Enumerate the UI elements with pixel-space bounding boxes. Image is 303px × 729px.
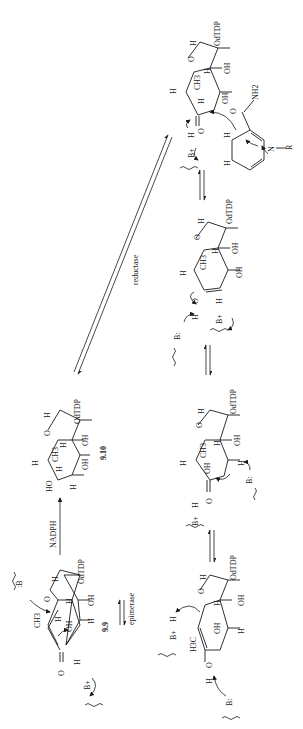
enzyme-wavy-line bbox=[210, 329, 228, 332]
oh-label: OH bbox=[235, 266, 244, 278]
o-ring-label: O bbox=[43, 596, 52, 602]
b-plus-label: B+ bbox=[169, 630, 178, 640]
oh-label: OH bbox=[213, 622, 222, 634]
curly-arrow bbox=[176, 606, 200, 612]
oh-label: OH bbox=[203, 462, 212, 474]
oh-label: OH bbox=[231, 242, 240, 254]
o-ring-label: O bbox=[193, 234, 202, 240]
ch3-label: CH3 bbox=[193, 75, 202, 90]
h-label: H bbox=[237, 628, 246, 634]
h-label: H bbox=[213, 600, 222, 606]
h-label: H bbox=[187, 132, 196, 138]
keto-nadh-complex bbox=[186, 42, 264, 170]
o-ring-label: O bbox=[187, 56, 196, 62]
nadph-label: NADPH bbox=[49, 520, 58, 548]
h-label: H bbox=[169, 616, 178, 622]
o-carbonyl-label: O bbox=[57, 670, 66, 676]
r-label: R bbox=[285, 144, 294, 150]
h-label: H bbox=[213, 440, 222, 446]
o-ring-label: O bbox=[195, 422, 204, 428]
otdp-label: OdTDP bbox=[77, 559, 86, 584]
b-colon-label: B: bbox=[225, 698, 234, 706]
h-label: H bbox=[197, 98, 206, 104]
otdp-label: OdTDP bbox=[225, 199, 234, 224]
h-label: H bbox=[215, 298, 224, 304]
h-label: H bbox=[169, 88, 178, 94]
o-ring-label: O bbox=[197, 588, 206, 594]
curly-arrow bbox=[186, 120, 190, 128]
h-label: H bbox=[197, 218, 206, 224]
h-label: H bbox=[31, 460, 40, 466]
b-plus-label: B+ bbox=[83, 680, 92, 690]
h-label: H bbox=[191, 314, 200, 320]
epimerase-label: epimerase bbox=[127, 592, 136, 625]
h-label: H bbox=[191, 502, 200, 508]
h-label: H bbox=[223, 160, 232, 166]
otdp-label: OdTDP bbox=[229, 555, 238, 580]
b-plus-label: B+ bbox=[191, 516, 200, 526]
oh-label: OH bbox=[81, 458, 90, 470]
o-label: O bbox=[205, 662, 214, 668]
h-label: H bbox=[205, 678, 214, 684]
enzyme-wavy-line bbox=[158, 654, 176, 657]
ch3-label: CH3 bbox=[199, 443, 208, 458]
ho-label: HO bbox=[45, 480, 54, 492]
enzyme-wavy-line bbox=[85, 704, 103, 707]
h-label: H bbox=[51, 576, 60, 582]
h-label: H bbox=[59, 442, 68, 448]
enol-intermediate bbox=[198, 575, 240, 662]
h-label: H bbox=[73, 659, 82, 665]
compound-label-9-10: 9.10 bbox=[99, 446, 108, 460]
h-label: H bbox=[54, 616, 63, 622]
oh-label: OH bbox=[87, 594, 96, 606]
b-plus-label: B+ bbox=[215, 314, 224, 324]
enzyme-wavy-line bbox=[173, 348, 176, 366]
ch3-label: CH3 bbox=[33, 613, 42, 628]
oh-label: OH bbox=[233, 434, 242, 446]
enzyme-wavy-line bbox=[254, 488, 257, 500]
o-carbonyl-label: O bbox=[205, 498, 214, 504]
o-carbonyl-label: O bbox=[197, 128, 206, 134]
oh-label: OH bbox=[223, 62, 232, 74]
reaction-scheme: CH3 OH H H OH H O H OdTDP O H B+ :B 9.9 … bbox=[0, 0, 303, 729]
colon-b-label: :B bbox=[15, 580, 24, 588]
h-label: H bbox=[189, 40, 198, 46]
enzyme-wavy-line bbox=[180, 167, 198, 170]
h-label: H bbox=[87, 618, 96, 624]
ch3-label: CH3 bbox=[51, 447, 60, 462]
oh-label: OH bbox=[237, 594, 246, 606]
otdp-label: OdTDP bbox=[229, 389, 238, 414]
h-label: H bbox=[197, 408, 206, 414]
oh-label: OH bbox=[81, 434, 90, 446]
o-amide-label: O bbox=[229, 108, 238, 114]
curly-arrow bbox=[214, 676, 226, 696]
h-label: H bbox=[223, 132, 232, 138]
reductase-reverse-arrow bbox=[78, 137, 172, 374]
otdp-label: OdTDP bbox=[213, 21, 222, 46]
h-label: H bbox=[43, 412, 52, 418]
h-label: H bbox=[179, 270, 188, 276]
n-label: N bbox=[267, 146, 276, 152]
curly-arrow bbox=[228, 318, 233, 330]
h-label: H bbox=[199, 574, 208, 580]
curly-arrow bbox=[246, 140, 258, 146]
h-label: H bbox=[69, 484, 78, 490]
h-label: H bbox=[211, 248, 220, 254]
compound-label-9-9: 9.9 bbox=[101, 622, 110, 632]
b-colon-label: B: bbox=[245, 476, 254, 484]
o-ring-label: O bbox=[43, 430, 52, 436]
enzyme-wavy-line bbox=[222, 717, 240, 720]
h-label: H bbox=[65, 598, 74, 604]
reductase-forward-arrow bbox=[74, 135, 168, 372]
reductase-label: reductase bbox=[131, 254, 140, 285]
nh2-label: NH2 bbox=[251, 84, 260, 100]
h-label: H bbox=[237, 460, 246, 466]
otdp-label: OdTDP bbox=[73, 399, 82, 424]
h3c-label: H3C bbox=[189, 637, 198, 652]
ch3-label: CH3 bbox=[199, 255, 208, 270]
b-colon-label: B: bbox=[173, 332, 182, 340]
h-label: H bbox=[55, 466, 64, 472]
h-label: H bbox=[179, 460, 188, 466]
h-label: H bbox=[203, 68, 212, 74]
oh-label: OH bbox=[221, 92, 230, 104]
